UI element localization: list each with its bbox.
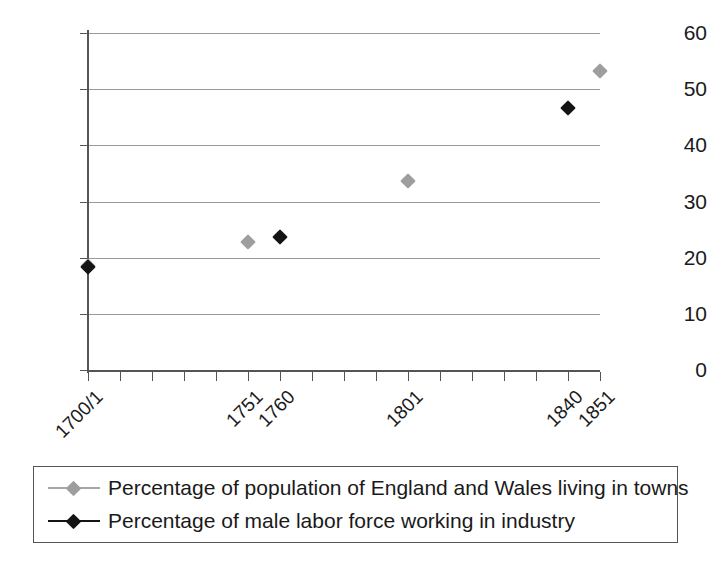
x-tick-mark [216, 372, 217, 381]
x-tick-mark [312, 372, 313, 381]
x-tick-label: 1700/1 [28, 386, 107, 465]
x-tick-mark [408, 372, 409, 381]
x-tick-mark [504, 372, 505, 381]
x-tick-mark [440, 372, 441, 381]
legend-label-industry: Percentage of male labor force working i… [108, 509, 575, 533]
gridline-40 [88, 145, 600, 146]
legend-marker-towns-icon [46, 480, 102, 496]
legend-entry-industry: Percentage of male labor force working i… [46, 506, 575, 536]
gridline-50 [88, 89, 600, 90]
gridline-30 [88, 202, 600, 203]
x-tick-mark [88, 372, 89, 381]
x-tick-mark [280, 372, 281, 381]
y-tick-label-20: 20 [665, 247, 707, 268]
y-tick-mark-40 [80, 145, 88, 146]
y-tick-mark-30 [80, 202, 88, 203]
chart-legend: Percentage of population of England and … [33, 466, 678, 543]
x-tick-mark [600, 372, 601, 381]
y-tick-mark-10 [80, 314, 88, 315]
y-tick-mark-0 [80, 370, 88, 371]
x-tick-mark [152, 372, 153, 381]
x-tick-mark [568, 372, 569, 381]
x-tick-mark [120, 372, 121, 381]
gridline-20 [88, 258, 600, 259]
scatter-chart: // gridlines are absolutely positioned r… [0, 0, 707, 564]
x-tick-mark [536, 372, 537, 381]
y-tick-label-60: 60 [665, 22, 707, 43]
x-tick-label: 1801 [348, 386, 427, 465]
x-tick-mark [248, 372, 249, 381]
x-tick-mark [376, 372, 377, 381]
y-tick-label-10: 10 [665, 303, 707, 324]
data-point-marker [272, 230, 288, 246]
legend-marker-industry-icon [46, 513, 102, 529]
data-point-marker [240, 234, 256, 250]
data-point-marker [560, 100, 576, 116]
gridline-10 [88, 314, 600, 315]
y-tick-mark-50 [80, 89, 88, 90]
data-point-marker [592, 63, 608, 79]
x-tick-mark [344, 372, 345, 381]
y-tick-mark-60 [80, 33, 88, 34]
y-tick-label-50: 50 [665, 78, 707, 99]
x-tick-mark [184, 372, 185, 381]
gridline-60 [88, 33, 600, 34]
y-tick-label-30: 30 [665, 191, 707, 212]
y-tick-label-40: 40 [665, 134, 707, 155]
legend-entry-towns: Percentage of population of England and … [46, 473, 689, 503]
y-tick-label-0: 0 [665, 359, 707, 380]
x-tick-mark [472, 372, 473, 381]
data-point-marker [400, 173, 416, 189]
legend-label-towns: Percentage of population of England and … [108, 476, 689, 500]
